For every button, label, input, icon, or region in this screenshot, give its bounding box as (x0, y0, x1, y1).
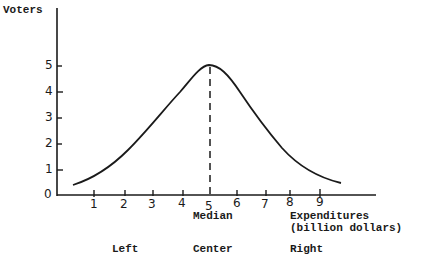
y-tick-label-4: 4 (45, 85, 53, 97)
x-tick-label-6: 6 (233, 197, 241, 209)
y-tick-label-2: 2 (45, 137, 53, 149)
spectrum-label-center: Center (193, 244, 233, 255)
x-tick-label-2: 2 (120, 198, 128, 210)
y-tick-label-3: 3 (45, 111, 53, 123)
x-axis-title-line2: (billion dollars) (290, 223, 402, 234)
y-axis-title: Voters (3, 5, 43, 16)
x-tick-label-4: 4 (178, 197, 186, 209)
voter-distribution-curve (73, 65, 341, 185)
x-tick-label-1: 1 (90, 198, 98, 210)
voter-distribution-chart: Voters 0 1 2 3 4 5 1 2 3 4 5 6 7 8 9 Med… (0, 0, 422, 268)
median-label: Median (193, 211, 233, 222)
spectrum-label-right: Right (290, 244, 323, 255)
y-tick-label-0: 0 (44, 188, 52, 200)
y-ticks (57, 66, 63, 170)
x-tick-label-8: 8 (286, 196, 294, 208)
x-tick-label-9: 9 (316, 196, 324, 208)
y-tick-label-1: 1 (45, 163, 53, 175)
x-axis-title-line1: Expenditures (290, 211, 369, 222)
x-tick-label-3: 3 (148, 198, 156, 210)
x-tick-label-7: 7 (261, 198, 269, 210)
spectrum-label-left: Left (112, 244, 138, 255)
y-tick-label-5: 5 (45, 59, 53, 71)
